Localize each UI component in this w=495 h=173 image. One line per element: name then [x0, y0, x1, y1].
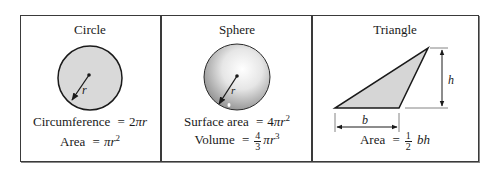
- exponent: 2: [115, 133, 120, 143]
- circle-title: Circle: [20, 22, 160, 38]
- sphere-highlight: [228, 103, 231, 107]
- volume-formula: Volume =43πr3: [163, 131, 311, 152]
- circle-area-formula: Area =πr2: [20, 134, 160, 150]
- sphere-figure: [204, 44, 270, 110]
- fraction: 12: [405, 131, 412, 152]
- equals-sign: =: [392, 132, 399, 147]
- fraction: 43: [254, 131, 261, 152]
- formula-label: Volume: [195, 132, 235, 147]
- triangle-base-label: b: [362, 113, 368, 128]
- formula-label: Area: [360, 132, 385, 147]
- circle-figure: [58, 46, 122, 110]
- surface-area-formula: Surface area =4πr2: [163, 114, 311, 130]
- triangle-title: Triangle: [325, 22, 465, 38]
- equals-sign: =: [93, 134, 100, 149]
- circle-radius-label: r: [82, 83, 87, 98]
- triangle-height-label: h: [448, 73, 454, 88]
- variables: bh: [417, 132, 430, 147]
- variable: r: [142, 114, 147, 129]
- formula-label: Circumference: [33, 114, 110, 129]
- equals-sign: =: [118, 114, 125, 129]
- exponent: 3: [275, 131, 280, 141]
- formula-label: Area: [60, 134, 85, 149]
- circumference-formula: Circumference =2πr: [20, 114, 160, 130]
- triangle-shape: [335, 48, 428, 108]
- circle-shape: [58, 46, 122, 110]
- sphere-radius-label: r: [231, 84, 235, 96]
- denominator: 3: [254, 142, 261, 152]
- denominator: 2: [405, 142, 412, 152]
- triangle-area-formula: Area =12 bh: [325, 131, 465, 152]
- triangle-figure: [335, 48, 448, 132]
- formula-label: Surface area: [184, 114, 249, 129]
- equals-sign: =: [242, 132, 249, 147]
- sphere-title: Sphere: [167, 22, 307, 38]
- equals-sign: =: [256, 114, 263, 129]
- exponent: 2: [285, 113, 290, 123]
